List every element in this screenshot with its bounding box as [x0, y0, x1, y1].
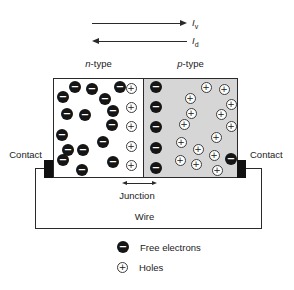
left-contact-label: Contact: [4, 149, 42, 160]
legend-item-free-electrons: − Free electrons: [117, 241, 201, 253]
arrowhead-right-icon: [180, 20, 187, 26]
junction-arrowhead-right-icon: [152, 181, 157, 185]
wire-right-stub: [246, 168, 262, 169]
junction-label: Junction: [104, 190, 170, 201]
current-label-iv: Iv: [192, 17, 198, 32]
current-subscript: v: [195, 23, 199, 30]
current-label-id: Id: [192, 35, 199, 50]
legend-label: Free electrons: [140, 242, 201, 253]
wire-label: Wire: [31, 211, 258, 222]
legend-label: Holes: [139, 262, 163, 273]
current-arrow-right-line: [92, 23, 180, 24]
n-suffix: -type: [91, 58, 112, 69]
n-region: [53, 78, 144, 178]
hole-icon: +: [117, 262, 128, 273]
wire-left-stub: [35, 168, 44, 169]
n-region-title: n-type: [53, 58, 144, 69]
p-region-title: p-type: [143, 58, 238, 69]
pn-junction-diagram: Iv Id n-type p-type Contact Contact Wire…: [0, 0, 294, 290]
electron-icon: −: [117, 241, 129, 253]
arrowhead-left-icon: [92, 38, 99, 44]
legend-item-holes: + Holes: [117, 262, 163, 273]
junction-arrow-line: [127, 183, 152, 184]
current-arrow-left-line: [99, 41, 187, 42]
right-contact-label: Contact: [250, 149, 283, 160]
current-subscript: d: [195, 41, 199, 48]
p-suffix: -type: [183, 58, 204, 69]
p-region: [143, 78, 238, 178]
